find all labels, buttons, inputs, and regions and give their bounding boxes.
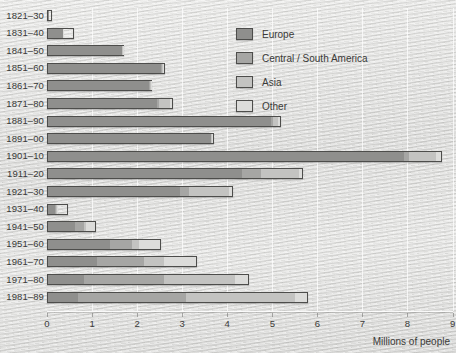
bar-segment-other (229, 187, 232, 196)
bar (47, 274, 249, 285)
chart-legend: EuropeCentral / South AmericaAsiaOther (236, 22, 450, 118)
legend-item-asia: Asia (236, 70, 450, 94)
x-tick-label: 6 (307, 318, 327, 329)
bar-segment-csa (78, 293, 185, 302)
bar (47, 63, 165, 74)
bar-segment-other (295, 293, 307, 302)
x-axis-line (47, 311, 453, 312)
bar-segment-asia (144, 257, 164, 266)
bar-segment-other (212, 134, 213, 143)
bar-segment-europe (48, 205, 55, 214)
x-tick-label: 7 (352, 318, 372, 329)
bar-segment-asia (132, 240, 139, 249)
x-axis-tick (137, 313, 138, 317)
x-tick-label: 2 (127, 318, 147, 329)
bar-segment-europe (48, 152, 404, 161)
bar-segment-csa (110, 240, 132, 249)
x-tick-label: 9 (443, 318, 456, 329)
bar-segment-asia (409, 152, 436, 161)
x-axis-tick (362, 313, 363, 317)
y-tick-label: 1981–89 (0, 292, 44, 302)
bar-segment-other (139, 240, 160, 249)
y-tick-label: 1961–70 (0, 257, 44, 267)
bar-segment-csa (75, 222, 85, 231)
bar-segment-europe (48, 293, 78, 302)
x-tick-label: 5 (262, 318, 282, 329)
y-tick-label: 1971–80 (0, 275, 44, 285)
bar-segment-europe (48, 29, 63, 38)
legend-item-csa: Central / South America (236, 46, 450, 70)
x-axis-tick (453, 313, 454, 317)
grid-line (453, 8, 454, 311)
bar (47, 45, 124, 56)
bar-segment-asia (164, 275, 235, 284)
y-tick-label: 1911–20 (0, 169, 44, 179)
y-tick-label: 1881–90 (0, 116, 44, 126)
bar-chart: 0123456789 1821–301831–401841–501851–601… (0, 0, 456, 353)
bar-segment-europe (48, 222, 75, 231)
bar-segment-europe (48, 99, 157, 108)
bar-segment-europe (48, 257, 97, 266)
bar-segment-other (170, 99, 172, 108)
bar-segment-europe (48, 169, 242, 178)
x-axis-tick (272, 313, 273, 317)
bar-segment-asia (261, 169, 299, 178)
x-axis-tick (407, 313, 408, 317)
bar-segment-europe (48, 46, 122, 55)
bar-segment-other (299, 169, 302, 178)
x-tick-label: 8 (397, 318, 417, 329)
y-tick-label: 1821–30 (0, 11, 44, 21)
legend-label: Central / South America (262, 53, 368, 64)
x-axis-tick (317, 313, 318, 317)
bar-segment-csa (97, 257, 144, 266)
bar-segment-csa (84, 275, 164, 284)
y-tick-label: 1931–40 (0, 204, 44, 214)
bar (47, 10, 52, 21)
bar-segment-europe (48, 64, 161, 73)
y-tick-label: 1941–50 (0, 222, 44, 232)
bar (47, 28, 74, 39)
x-tick-label: 3 (172, 318, 192, 329)
y-tick-label: 1901–10 (0, 151, 44, 161)
legend-label: Europe (262, 29, 294, 40)
bar-segment-europe (48, 275, 84, 284)
y-tick-label: 1831–40 (0, 28, 44, 38)
bar (47, 292, 308, 303)
y-axis-labels: 1821–301831–401841–501851–601861–701871–… (0, 0, 44, 353)
legend-label: Asia (262, 77, 281, 88)
legend-swatch-csa (236, 52, 253, 64)
x-axis-title: Millions of people (373, 336, 450, 347)
x-axis-tick (47, 313, 48, 317)
bar-segment-asia (189, 187, 229, 196)
bar (47, 204, 68, 215)
x-axis-tick (92, 313, 93, 317)
legend-item-europe: Europe (236, 22, 450, 46)
legend-swatch-europe (236, 28, 253, 40)
x-tick-label: 1 (82, 318, 102, 329)
bar (47, 168, 303, 179)
y-tick-label: 1921–30 (0, 187, 44, 197)
y-tick-label: 1861–70 (0, 81, 44, 91)
bar-segment-europe (48, 187, 180, 196)
legend-item-other: Other (236, 94, 450, 118)
bar-segment-csa (242, 169, 261, 178)
bar-segment-europe (48, 81, 149, 90)
y-tick-label: 1871–80 (0, 99, 44, 109)
bar-segment-asia (159, 99, 170, 108)
bar (47, 221, 96, 232)
bar-segment-europe (48, 240, 110, 249)
legend-swatch-other (236, 100, 253, 112)
bar-segment-asia (186, 293, 296, 302)
bar (47, 151, 442, 162)
bar (47, 133, 214, 144)
bar (47, 239, 161, 250)
y-tick-label: 1841–50 (0, 46, 44, 56)
bar (47, 186, 233, 197)
bar-segment-csa (180, 187, 189, 196)
bar (47, 80, 152, 91)
x-axis-tick (182, 313, 183, 317)
bar-segment-other (164, 257, 196, 266)
y-tick-label: 1891–00 (0, 134, 44, 144)
bar-segment-other (163, 64, 164, 73)
bar-segment-europe (48, 134, 211, 143)
